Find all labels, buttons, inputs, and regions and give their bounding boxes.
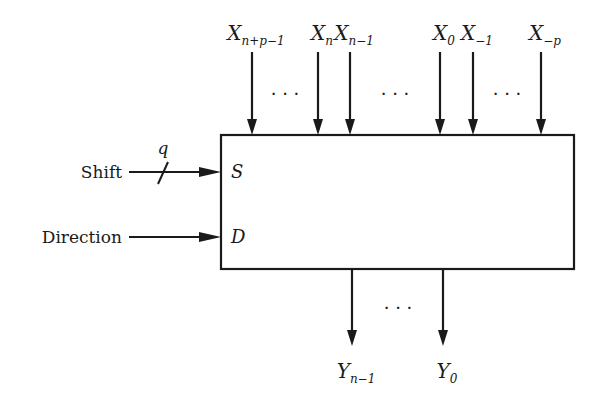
input-shift: ShiftSq: [81, 138, 244, 184]
arrowhead-icon: [536, 119, 546, 135]
arrowhead-icon: [435, 119, 445, 135]
input-x-minus-p: X−p: [527, 21, 561, 135]
output-y-0: Y0: [437, 269, 458, 386]
input-label-x-n: Xn: [309, 21, 333, 48]
arrowhead-icon: [199, 232, 221, 242]
top-ellipses-group: · · ·· · ·· · ·: [271, 83, 522, 104]
arrowhead-icon: [247, 119, 257, 135]
input-direction: DirectionD: [42, 226, 246, 247]
bottom-ellipsis-group: · · ·: [384, 297, 413, 318]
arrowhead-icon: [313, 119, 323, 135]
shift-label: Shift: [81, 162, 122, 182]
input-label-x-n-plus-p-minus-1: Xn+p−1: [225, 21, 284, 48]
bottom-outputs-group: Yn−1Y0: [337, 269, 458, 386]
input-x-n-plus-p-minus-1: Xn+p−1: [225, 21, 284, 135]
arrowhead-icon: [468, 119, 478, 135]
input-x-n-minus-1: Xn−1: [332, 21, 374, 135]
barrel-shifter-diagram: Xn+p−1XnXn−1X0X−1X−p · · ·· · ·· · · Shi…: [0, 0, 604, 400]
input-label-x-0: X0: [431, 21, 455, 48]
arrowhead-icon: [438, 330, 448, 346]
top-inputs-group: Xn+p−1XnXn−1X0X−1X−p: [225, 21, 561, 135]
output-ellipsis: · · ·: [384, 297, 413, 318]
ellipsis-1: · · ·: [381, 83, 410, 104]
ellipsis-0: · · ·: [271, 83, 300, 104]
output-label-y-n-minus-1: Yn−1: [337, 359, 376, 386]
shifter-block: [221, 135, 574, 269]
output-y-n-minus-1: Yn−1: [337, 269, 376, 386]
input-x-0: X0: [431, 21, 455, 135]
input-x-n: Xn: [309, 21, 333, 135]
bus-width-label: q: [158, 138, 169, 158]
ellipsis-2: · · ·: [493, 83, 522, 104]
input-label-x-minus-1: X−1: [459, 21, 493, 48]
input-x-minus-1: X−1: [459, 21, 493, 135]
direction-label: Direction: [42, 227, 122, 247]
arrowhead-icon: [345, 119, 355, 135]
output-label-y-0: Y0: [437, 359, 458, 386]
input-label-x-minus-p: X−p: [527, 21, 561, 48]
direction-port-label: D: [230, 226, 246, 247]
arrowhead-icon: [347, 330, 357, 346]
left-inputs-group: ShiftSqDirectionD: [42, 138, 246, 247]
input-label-x-n-minus-1: Xn−1: [332, 21, 374, 48]
arrowhead-icon: [199, 167, 221, 177]
shift-port-label: S: [231, 161, 243, 182]
